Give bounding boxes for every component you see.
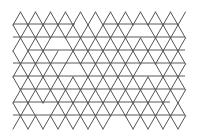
- diagonal-line: [118, 25, 126, 38]
- diagonal-line: [171, 25, 179, 38]
- diagonal-line: [103, 38, 111, 51]
- diagonal-line: [13, 12, 21, 25]
- diagonal-line: [81, 103, 89, 116]
- diagonal-line: [96, 103, 104, 116]
- diagonal-line: [81, 51, 89, 64]
- diagonal-line: [141, 90, 149, 103]
- diagonal-line: [141, 12, 149, 25]
- diagonal-line: [126, 77, 134, 90]
- diagonal-line: [36, 38, 44, 51]
- diagonal-line: [66, 25, 74, 38]
- diagonal-line: [43, 77, 51, 90]
- diagonal-line: [133, 90, 141, 103]
- diagonal-line: [13, 77, 21, 90]
- diagonal-line: [96, 116, 104, 129]
- diagonal-line: [118, 103, 126, 116]
- diagonal-line: [28, 12, 36, 25]
- diagonal-line: [36, 77, 44, 90]
- diagonal-line: [178, 90, 186, 103]
- diagonal-line: [148, 116, 156, 129]
- diagonal-line: [118, 51, 126, 64]
- diagonal-line: [51, 12, 59, 25]
- diagonal-line: [21, 64, 29, 77]
- diagonal-line: [96, 77, 104, 90]
- diagonal-line: [66, 103, 74, 116]
- diagonal-line: [13, 64, 21, 77]
- diagonal-line: [126, 25, 134, 38]
- diagonal-line: [126, 64, 134, 77]
- diagonal-line: [21, 25, 29, 38]
- diagonal-line: [178, 25, 186, 38]
- diagonal-line: [126, 38, 134, 51]
- diagonal-line: [28, 77, 36, 90]
- diagonal-line: [73, 51, 81, 64]
- diagonal-line: [88, 116, 96, 129]
- diagonal-line: [163, 77, 171, 90]
- diagonal-line: [51, 116, 59, 129]
- diagonal-line: [88, 64, 96, 77]
- diagonal-line: [96, 25, 104, 38]
- diagonal-line: [28, 90, 36, 103]
- diagonal-line: [111, 64, 119, 77]
- diagonal-line: [43, 64, 51, 77]
- diagonal-line: [88, 77, 96, 90]
- diagonal-line: [126, 90, 134, 103]
- diagonal-line: [36, 25, 44, 38]
- diagonal-line: [36, 64, 44, 77]
- diagonal-line: [111, 51, 119, 64]
- diagonal-line: [96, 51, 104, 64]
- diagonal-line: [36, 51, 44, 64]
- diagonal-line: [36, 12, 44, 25]
- diagonal-line: [171, 51, 179, 64]
- diagonal-line: [141, 51, 149, 64]
- diagonal-line: [88, 38, 96, 51]
- diagonal-line: [28, 116, 36, 129]
- diagonal-line: [28, 25, 36, 38]
- diagonal-line: [13, 25, 21, 38]
- diagonal-line: [118, 12, 126, 25]
- diagonal-line: [51, 90, 59, 103]
- diagonal-line: [156, 12, 164, 25]
- diagonal-line: [171, 77, 179, 90]
- diagonal-line: [43, 38, 51, 51]
- diagonal-line: [13, 38, 21, 51]
- diagonal-line: [163, 90, 171, 103]
- diagonal-line: [178, 12, 186, 25]
- diagonal-line: [103, 64, 111, 77]
- diagonal-line: [133, 103, 141, 116]
- diagonal-line: [163, 51, 171, 64]
- triangle-pattern-figure: [0, 0, 199, 137]
- diagonal-line: [58, 77, 66, 90]
- diagonal-line: [103, 116, 111, 129]
- diagonal-line: [178, 116, 186, 129]
- diagonal-line: [66, 90, 74, 103]
- diagonal-line: [103, 25, 111, 38]
- diagonal-line: [163, 116, 171, 129]
- diagonal-line: [111, 12, 119, 25]
- diagonal-line: [118, 38, 126, 51]
- diagonal-line: [21, 103, 29, 116]
- diagonal-line: [88, 103, 96, 116]
- diagonal-line: [133, 64, 141, 77]
- diagonal-line: [178, 38, 186, 51]
- diagonal-line: [171, 38, 179, 51]
- diagonal-line: [156, 103, 164, 116]
- diagonal-line: [148, 25, 156, 38]
- diagonal-line: [111, 77, 119, 90]
- diagonal-line: [13, 51, 21, 64]
- diagonal-line: [43, 51, 51, 64]
- diagonal-line: [28, 103, 36, 116]
- diagonal-line: [88, 12, 96, 25]
- diagonal-line: [171, 116, 179, 129]
- diagonal-line: [156, 77, 164, 90]
- diagonal-line: [178, 51, 186, 64]
- diagonal-line: [171, 90, 179, 103]
- diagonal-line: [148, 38, 156, 51]
- diagonal-line: [43, 25, 51, 38]
- diagonal-line: [141, 38, 149, 51]
- diagonal-lines: [13, 12, 186, 129]
- diagonal-line: [58, 64, 66, 77]
- diagonal-line: [66, 116, 74, 129]
- diagonal-line: [96, 90, 104, 103]
- diagonal-line: [13, 90, 21, 103]
